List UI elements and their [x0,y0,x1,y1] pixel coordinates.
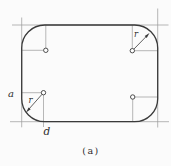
corner-hole-top-right [130,49,134,53]
corner-hole-bottom-left [41,91,45,95]
corner-hole-bottom-right [131,95,135,99]
rounded-plate-diagram: a d r r (a) [0,0,171,166]
figure-caption: (a) [82,145,100,156]
dimension-label-a: a [8,88,14,99]
figure-canvas: a d r r (a) [0,0,171,166]
dimension-label-d: d [44,125,51,137]
corner-hole-top-left [44,48,48,52]
